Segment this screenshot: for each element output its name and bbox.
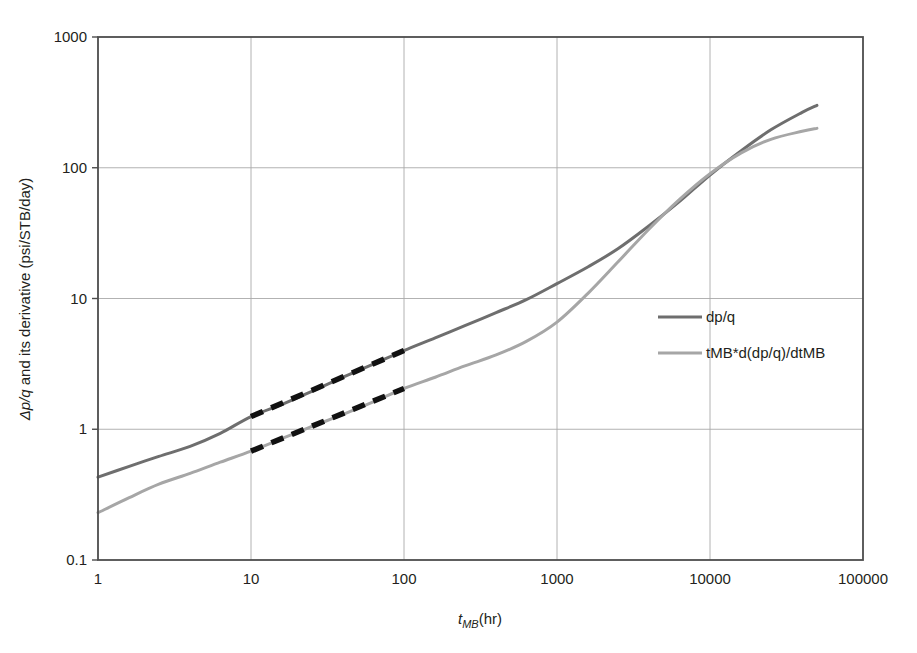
chart-figure: 110100100010000100000 0.11101001000 tMB(… [0,0,917,653]
y-tick-label: 100 [62,159,87,176]
legend-label-derivative: tMB*d(dp/q)/dtMB [706,344,825,361]
y-tick-label: 10 [70,290,87,307]
y-axis-title: Δp/q and its derivative (psi/STB/day) [16,178,33,422]
y-tick-label: 1000 [54,28,87,45]
x-tick-label: 10 [243,570,260,587]
y-tick-label: 1 [79,420,87,437]
x-tick-label: 1 [94,570,102,587]
svg-text:tMB(hr): tMB(hr) [458,610,502,630]
log-log-plot: 110100100010000100000 0.11101001000 tMB(… [0,0,917,653]
slope-annotations [251,351,404,452]
legend-label-dp-q: dp/q [706,308,735,325]
series-line-dp-q [98,105,817,477]
x-tick-label: 100 [391,570,416,587]
y-axis-rest: and its derivative (psi/STB/day) [16,178,33,390]
gridlines [98,37,863,560]
x-tick-label: 10000 [689,570,731,587]
y-tick-labels: 0.11101001000 [54,28,98,568]
y-tick-label: 0.1 [66,551,87,568]
x-tick-label: 100000 [838,570,888,587]
x-axis-title: tMB(hr) [458,610,502,630]
y-axis-symbol: Δp/q [16,389,33,422]
x-axis-subscript: MB [462,618,479,630]
legend: dp/qtMB*d(dp/q)/dtMB [658,308,825,361]
x-tick-label: 1000 [540,570,573,587]
x-tick-labels: 110100100010000100000 [94,570,888,587]
x-axis-units: (hr) [479,610,502,627]
svg-text:Δp/q and its derivative (psi/S: Δp/q and its derivative (psi/STB/day) [16,178,33,422]
